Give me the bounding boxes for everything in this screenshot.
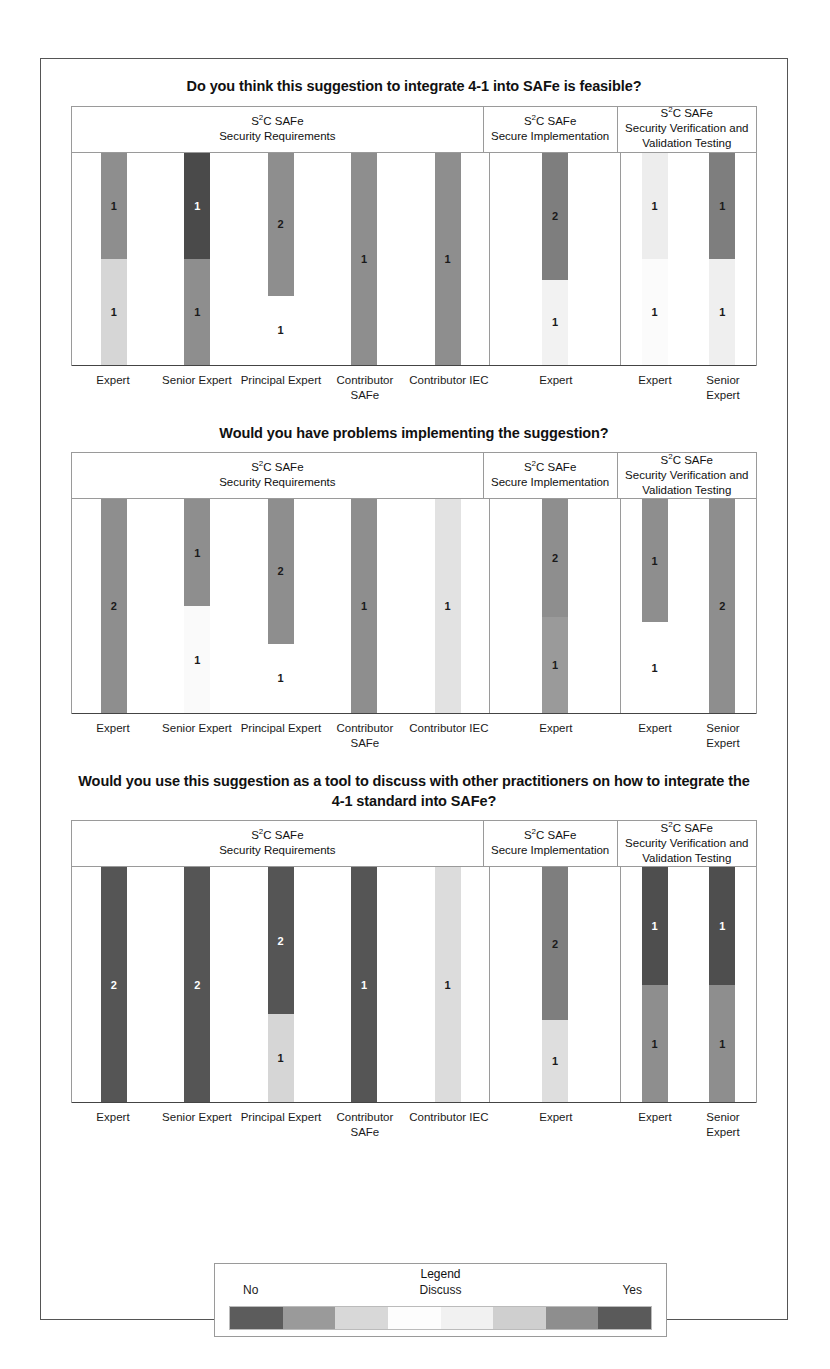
legend: Legend No Discuss Yes bbox=[214, 1263, 667, 1337]
axis-tick-label: Contributor SAFe bbox=[323, 714, 407, 760]
bar-segment: 1 bbox=[642, 985, 668, 1103]
bar-segment-value: 1 bbox=[652, 200, 658, 212]
stacked-bar[interactable]: 2 bbox=[709, 499, 735, 713]
axis-tick-label: Expert bbox=[71, 1103, 155, 1149]
bar-segment: 2 bbox=[542, 867, 568, 1020]
bar-group: 112 bbox=[620, 499, 756, 713]
bar-segment-value: 2 bbox=[552, 210, 558, 222]
bar-segment: 1 bbox=[101, 259, 127, 365]
bar-segment-value: 1 bbox=[719, 306, 725, 318]
bar-slot: 2 bbox=[688, 499, 756, 713]
axis-tick-label: Expert bbox=[491, 714, 621, 760]
plot-area: 222111211111 bbox=[72, 867, 756, 1103]
bar-segment-value: 1 bbox=[111, 306, 117, 318]
stacked-bar[interactable]: 11 bbox=[642, 499, 668, 713]
bar-segment: 1 bbox=[542, 617, 568, 713]
stacked-bar[interactable]: 1 bbox=[435, 867, 461, 1102]
group-header: S2C SAFeSecure Implementation bbox=[483, 107, 617, 152]
stacked-bar[interactable]: 11 bbox=[709, 867, 735, 1102]
stacked-bar[interactable]: 11 bbox=[642, 867, 668, 1102]
group-header-row: S2C SAFeSecurity RequirementsS2C SAFeSec… bbox=[72, 453, 756, 499]
group-header: S2C SAFeSecure Implementation bbox=[483, 453, 617, 498]
bar-segment-value: 1 bbox=[361, 600, 367, 612]
stacked-bar[interactable]: 21 bbox=[268, 153, 294, 365]
bar-segment: 1 bbox=[542, 280, 568, 365]
group-header: S2C SAFeSecure Implementation bbox=[483, 821, 617, 866]
bar-segment: 1 bbox=[542, 1020, 568, 1102]
stacked-bar[interactable]: 1 bbox=[435, 153, 461, 365]
bar-slot: 1 bbox=[322, 499, 405, 713]
bar-segment-value: 1 bbox=[278, 672, 284, 684]
group-header-line2: Security Requirements bbox=[76, 475, 479, 490]
bar-slot: 21 bbox=[239, 153, 322, 365]
axis-labels-row: ExpertSenior ExpertPrincipal ExpertContr… bbox=[71, 1103, 757, 1149]
legend-band-5 bbox=[493, 1307, 546, 1329]
bar-segment: 1 bbox=[642, 153, 668, 259]
bar-segment: 2 bbox=[101, 867, 127, 1102]
chart-panel-1: Do you think this suggestion to integrat… bbox=[41, 59, 787, 412]
group-header-line1: S2C SAFe bbox=[622, 821, 752, 836]
group-header-row: S2C SAFeSecurity RequirementsS2C SAFeSec… bbox=[72, 821, 756, 867]
stacked-bar[interactable]: 2 bbox=[101, 867, 127, 1102]
stacked-bar[interactable]: 2 bbox=[101, 499, 127, 713]
bar-segment: 2 bbox=[268, 867, 294, 1014]
bar-segment: 1 bbox=[709, 153, 735, 259]
stacked-bar[interactable]: 1 bbox=[351, 867, 377, 1102]
axis-tick-label: Contributor SAFe bbox=[323, 1103, 407, 1149]
bar-segment: 2 bbox=[542, 153, 568, 280]
legend-gradient-scale bbox=[229, 1306, 652, 1330]
legend-labels: No Discuss Yes bbox=[229, 1283, 652, 1303]
stacked-bar[interactable]: 11 bbox=[184, 499, 210, 713]
bar-group: 1111 bbox=[620, 153, 756, 365]
chart-title: Do you think this suggestion to integrat… bbox=[41, 77, 787, 97]
stacked-bar[interactable]: 2 bbox=[184, 867, 210, 1102]
bar-segment: 2 bbox=[184, 867, 210, 1102]
bar-segment-value: 2 bbox=[552, 938, 558, 950]
bar-slot: 11 bbox=[688, 153, 756, 365]
stacked-bar[interactable]: 21 bbox=[268, 499, 294, 713]
stacked-bar[interactable]: 1 bbox=[351, 153, 377, 365]
axis-tick-label: Senior Expert bbox=[155, 714, 239, 760]
bar-segment-value: 1 bbox=[719, 920, 725, 932]
legend-band-7 bbox=[598, 1307, 651, 1329]
bar-segment-value: 1 bbox=[719, 1038, 725, 1050]
bar-segment-value: 2 bbox=[278, 565, 284, 577]
bar-segment-value: 1 bbox=[652, 306, 658, 318]
bar-slot: 11 bbox=[688, 867, 756, 1102]
bar-segment-value: 2 bbox=[552, 552, 558, 564]
legend-label-yes: Yes bbox=[622, 1283, 642, 1297]
bar-segment-value: 2 bbox=[111, 979, 117, 991]
bar-segment: 1 bbox=[642, 259, 668, 365]
group-header-line2: Security Verification and Validation Tes… bbox=[622, 468, 752, 498]
bar-group: 21 bbox=[489, 153, 619, 365]
group-header-row: S2C SAFeSecurity RequirementsS2C SAFeSec… bbox=[72, 107, 756, 153]
group-header-line2: Secure Implementation bbox=[488, 129, 613, 144]
bar-segment: 2 bbox=[101, 499, 127, 713]
bar-segment: 1 bbox=[642, 867, 668, 985]
stacked-bar[interactable]: 21 bbox=[542, 867, 568, 1102]
bar-group: 1111 bbox=[620, 867, 756, 1102]
legend-band-1 bbox=[283, 1307, 336, 1329]
group-header: S2C SAFeSecurity Requirements bbox=[72, 821, 483, 866]
bar-group: 2112111 bbox=[72, 499, 489, 713]
axis-group: Expert bbox=[491, 714, 621, 760]
stacked-bar[interactable]: 11 bbox=[101, 153, 127, 365]
group-header-line2: Security Requirements bbox=[76, 129, 479, 144]
bar-segment: 1 bbox=[184, 499, 210, 606]
stacked-bar[interactable]: 1 bbox=[351, 499, 377, 713]
bar-segment-value: 1 bbox=[194, 306, 200, 318]
bar-segment-value: 1 bbox=[361, 253, 367, 265]
stacked-bar[interactable]: 11 bbox=[184, 153, 210, 365]
chart-title: Would you use this suggestion as a tool … bbox=[41, 772, 787, 811]
stacked-bar[interactable]: 21 bbox=[268, 867, 294, 1102]
bar-segment-value: 1 bbox=[552, 316, 558, 328]
stacked-bar[interactable]: 21 bbox=[542, 153, 568, 365]
group-header-line1: S2C SAFe bbox=[488, 114, 613, 129]
stacked-bar[interactable]: 1 bbox=[435, 499, 461, 713]
chart-panel-3: Would you use this suggestion as a tool … bbox=[41, 760, 787, 1149]
stacked-bar[interactable]: 11 bbox=[642, 153, 668, 365]
axis-group: Expert bbox=[491, 366, 621, 412]
stacked-bar[interactable]: 11 bbox=[709, 153, 735, 365]
bar-segment: 1 bbox=[184, 606, 210, 713]
stacked-bar[interactable]: 21 bbox=[542, 499, 568, 713]
